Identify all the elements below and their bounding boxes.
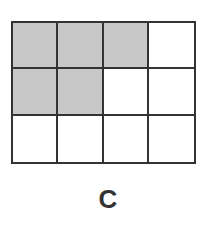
empty-cell bbox=[104, 69, 149, 115]
shaded-cell bbox=[104, 23, 149, 69]
empty-cell bbox=[58, 116, 103, 162]
empty-cell bbox=[13, 116, 58, 162]
shaded-cell bbox=[13, 23, 58, 69]
empty-cell bbox=[149, 23, 194, 69]
empty-cell bbox=[149, 69, 194, 115]
empty-cell bbox=[149, 116, 194, 162]
shaded-cell bbox=[58, 69, 103, 115]
shaded-cell bbox=[58, 23, 103, 69]
fraction-grid bbox=[11, 21, 196, 164]
option-label: C bbox=[0, 186, 203, 212]
empty-cell bbox=[104, 116, 149, 162]
shaded-cell bbox=[13, 69, 58, 115]
